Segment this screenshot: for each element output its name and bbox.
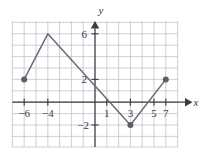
- x-tick-label-1: 1: [104, 107, 110, 119]
- x-tick-label-5: 5: [151, 107, 157, 119]
- data-point-minimum: [127, 122, 133, 128]
- y-axis-label: y: [98, 4, 104, 16]
- y-axis: [91, 21, 99, 147]
- x-axis-label: x: [193, 96, 199, 108]
- graph-figure: y x −6 −4 1 3 5 7 6 2 −2: [0, 0, 203, 152]
- x-tick-label--6: −6: [18, 107, 30, 119]
- x-tick-label-7: 7: [163, 107, 169, 119]
- data-point-right-endpoint: [163, 76, 169, 82]
- x-tick-label--4: −4: [42, 107, 54, 119]
- data-point-left-endpoint: [21, 76, 27, 82]
- y-tick-label--2: −2: [77, 119, 89, 131]
- x-tick-label-3: 3: [128, 107, 134, 119]
- y-tick-label-2: 2: [82, 73, 88, 85]
- coordinate-plane-plot: y x −6 −4 1 3 5 7 6 2 −2: [0, 0, 203, 152]
- y-tick-label-6: 6: [82, 28, 88, 40]
